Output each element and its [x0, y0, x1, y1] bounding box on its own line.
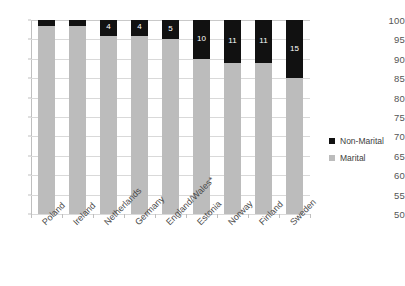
- bar-segment-non-marital[interactable]: 5: [162, 20, 179, 39]
- y-tick-label: 100: [379, 15, 405, 26]
- y-tick-label: 55: [379, 189, 405, 200]
- bar-value-label: 11: [255, 37, 272, 45]
- bar-column[interactable]: 11: [255, 20, 272, 214]
- plot-area: 44510111115: [31, 20, 310, 214]
- x-tick-mark: [310, 214, 311, 218]
- bar-segment-marital[interactable]: [69, 26, 86, 214]
- bar-value-label: 10: [193, 35, 210, 43]
- x-tick-mark: [62, 214, 63, 218]
- bar-segment-non-marital[interactable]: 11: [255, 20, 272, 63]
- bar-segment-non-marital[interactable]: 15: [286, 20, 303, 78]
- x-tick-mark: [248, 214, 249, 218]
- bar-segment-marital[interactable]: [100, 36, 117, 214]
- bar-segment-marital[interactable]: [286, 78, 303, 214]
- bar-value-label: 11: [224, 37, 241, 45]
- bar-segment-non-marital[interactable]: 11: [224, 20, 241, 63]
- x-tick-mark: [124, 214, 125, 218]
- y-tick-label: 95: [379, 34, 405, 45]
- legend-item[interactable]: Marital: [329, 153, 384, 163]
- bar-segment-marital[interactable]: [224, 63, 241, 214]
- bar-segment-non-marital[interactable]: 4: [100, 20, 117, 36]
- bar-column[interactable]: [38, 20, 55, 214]
- bar-segment-marital[interactable]: [162, 39, 179, 214]
- y-tick-label: 85: [379, 73, 405, 84]
- stacked-bar-chart: 10095908580757065605550 44510111115 Pola…: [0, 0, 405, 286]
- chart-title: [70, 0, 340, 2]
- legend-label: Non-Marital: [340, 136, 384, 146]
- bar-column[interactable]: 4: [100, 20, 117, 214]
- legend-swatch: [329, 138, 335, 144]
- bar-value-label: 4: [131, 23, 148, 31]
- x-tick-mark: [217, 214, 218, 218]
- y-tick-label: 90: [379, 53, 405, 64]
- bar-column[interactable]: 4: [131, 20, 148, 214]
- x-tick-mark: [279, 214, 280, 218]
- bar-segment-non-marital[interactable]: 4: [131, 20, 148, 36]
- bar-value-label: 4: [100, 23, 117, 31]
- x-tick-mark: [93, 214, 94, 218]
- legend-item[interactable]: Non-Marital: [329, 136, 384, 146]
- bar-segment-non-marital[interactable]: [38, 20, 55, 26]
- bar-value-label: 15: [286, 45, 303, 53]
- bar-column[interactable]: 15: [286, 20, 303, 214]
- bar-segment-non-marital[interactable]: [69, 20, 86, 26]
- legend-label: Marital: [340, 153, 366, 163]
- x-tick-mark: [186, 214, 187, 218]
- y-tick-label: 75: [379, 112, 405, 123]
- bar-column[interactable]: 11: [224, 20, 241, 214]
- bar-column[interactable]: [69, 20, 86, 214]
- chart-legend: Non-MaritalMarital: [329, 136, 384, 170]
- bar-segment-marital[interactable]: [255, 63, 272, 214]
- bar-column[interactable]: 5: [162, 20, 179, 214]
- legend-swatch: [329, 155, 335, 161]
- bar-segment-non-marital[interactable]: 10: [193, 20, 210, 59]
- y-tick-label: 80: [379, 92, 405, 103]
- y-tick-label: 60: [379, 170, 405, 181]
- x-tick-mark: [31, 214, 32, 218]
- y-tick-label: 50: [379, 209, 405, 220]
- bar-segment-marital[interactable]: [38, 26, 55, 214]
- bar-value-label: 5: [162, 25, 179, 33]
- x-tick-mark: [155, 214, 156, 218]
